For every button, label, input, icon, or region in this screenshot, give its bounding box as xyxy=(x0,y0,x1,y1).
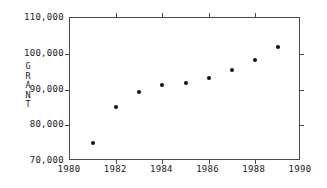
y-axis-tick-mark xyxy=(299,90,304,91)
data-point xyxy=(253,58,257,62)
y-axis-tick-labels: 70,00080,00090,000100,000110,000 xyxy=(0,0,64,188)
x-axis-tick-mark xyxy=(209,13,210,18)
data-point xyxy=(184,81,188,85)
x-axis-tick-mark xyxy=(116,13,117,18)
data-point xyxy=(276,45,280,49)
scatter-chart: G R A N T 70,00080,00090,000100,000110,0… xyxy=(0,0,327,188)
data-point xyxy=(91,141,95,145)
data-point xyxy=(137,90,141,94)
y-axis-tick-mark xyxy=(65,90,70,91)
y-axis-tick-mark xyxy=(65,125,70,126)
x-axis-tick-label: 1988 xyxy=(242,164,265,174)
y-axis-tick-label: 80,000 xyxy=(30,119,64,129)
plot-area xyxy=(69,17,300,160)
data-point xyxy=(160,83,164,87)
x-axis-tick-label: 1984 xyxy=(150,164,173,174)
x-axis-tick-label: 1990 xyxy=(289,164,312,174)
x-axis-tick-mark xyxy=(162,13,163,18)
y-axis-tick-mark xyxy=(299,125,304,126)
y-axis-tick-mark xyxy=(299,54,304,55)
data-point xyxy=(207,76,211,80)
y-axis-tick-label: 110,000 xyxy=(24,12,64,22)
y-axis-tick-label: 100,000 xyxy=(24,48,64,58)
y-axis-tick-mark xyxy=(65,54,70,55)
x-axis-tick-mark xyxy=(255,13,256,18)
x-axis-tick-label: 1982 xyxy=(104,164,127,174)
x-axis-tick-label: 1986 xyxy=(196,164,219,174)
y-axis-tick-label: 90,000 xyxy=(30,84,64,94)
data-point xyxy=(230,68,234,72)
data-point xyxy=(114,105,118,109)
x-axis-tick-label: 1980 xyxy=(58,164,81,174)
